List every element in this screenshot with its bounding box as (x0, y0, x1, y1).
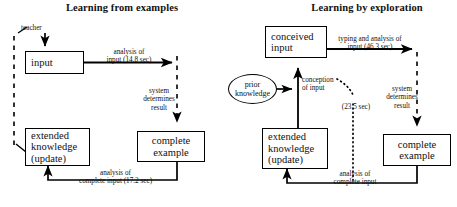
node-prior-knowledge[interactable]: prior knowledge (228, 74, 277, 104)
edge-label-analysis-of-complete-input-left: analysis of complete input (17.2 sec) (53, 169, 178, 186)
edge-label-elapsed-time: (23.5 sec) (336, 103, 376, 111)
edge-label-system-determines-result-right: system determines result (382, 85, 422, 110)
elapsed-time-dotted-line (337, 79, 353, 180)
node-extended-knowledge-left[interactable]: extended knowledge (update) (25, 128, 90, 166)
panel-title-learning-by-exploration: Learning by exploration (292, 2, 442, 13)
edge-label-analysis-of-input: analysis of input (14.8 sec) (87, 48, 171, 65)
edge-label-conception-of-input: conception of input (302, 76, 344, 93)
node-input[interactable]: input (25, 51, 84, 74)
node-conceived-input[interactable]: conceived input (265, 26, 327, 58)
annotation-teacher: teacher (21, 24, 71, 32)
node-complete-example-left[interactable]: complete example (137, 131, 205, 162)
edge-label-analysis-of-complete-input-right: analysis of complete input (305, 170, 405, 187)
node-extended-knowledge-right[interactable]: extended knowledge (update) (262, 128, 328, 169)
panel-title-learning-from-examples: Learning from examples (52, 2, 192, 13)
edge-label-typing-and-analysis: typing and analysis of input (46.3 sec) (329, 35, 411, 52)
diagram-canvas: Learning from examples Learning by explo… (0, 0, 457, 207)
node-complete-example-right[interactable]: complete example (383, 134, 451, 166)
edge-label-system-determines-result-left: system determines result (140, 87, 178, 112)
